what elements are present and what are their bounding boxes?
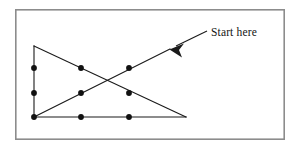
figure-root: Start here [0,0,293,150]
diagram-canvas: Start here [0,0,293,150]
dot-mid-middle [78,90,84,96]
dot-right-upper [126,65,132,71]
dot-mid-bottom [78,114,84,120]
dot-mid-upper [78,65,84,71]
dot-right-bottom [126,114,132,120]
dot-left-middle [31,90,37,96]
start-here-label: Start here [211,26,257,38]
dot-left-bottom [31,114,37,120]
dot-right-middle [126,90,132,96]
dot-left-upper [31,65,37,71]
